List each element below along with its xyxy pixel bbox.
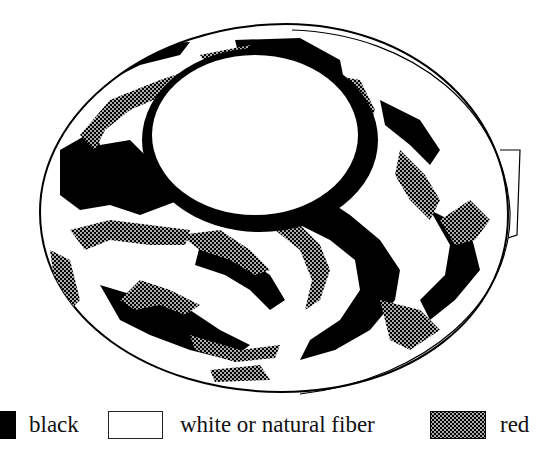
legend: black white or natural fiber red (0, 405, 555, 450)
legend-label-black: black (29, 410, 79, 440)
crosshatch-icon (430, 411, 486, 439)
basket-center (142, 48, 378, 232)
legend-label-white: white or natural fiber (180, 410, 375, 440)
basket-diagram (0, 0, 555, 400)
swatch-red (430, 411, 486, 439)
legend-label-red: red (500, 410, 529, 440)
swatch-black (0, 411, 16, 439)
swatch-white (108, 411, 163, 439)
